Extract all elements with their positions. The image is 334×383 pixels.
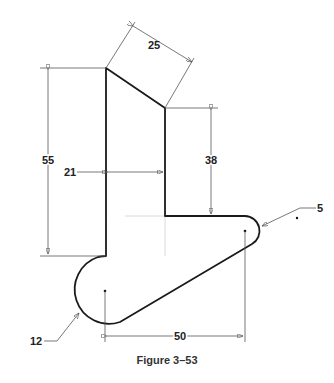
dim-right-height: 38 — [205, 154, 217, 166]
dimension-labels: 25 55 38 21 5 12 50 — [30, 39, 323, 347]
dim-large-radius: 12 — [30, 335, 42, 347]
dim-small-radius: 5 — [317, 202, 323, 214]
dim-slant-width: 25 — [148, 39, 160, 51]
figure-caption: Figure 3–53 — [0, 354, 334, 366]
technical-drawing: 25 55 38 21 5 12 50 — [0, 0, 334, 383]
dim-left-height: 55 — [42, 154, 54, 166]
part-outline — [75, 68, 260, 324]
dimension-lines — [40, 22, 316, 342]
stray-dot — [296, 217, 298, 219]
dim-neck-width: 21 — [64, 166, 76, 178]
dim-center-distance: 50 — [174, 330, 186, 342]
construction-lines — [125, 216, 165, 256]
